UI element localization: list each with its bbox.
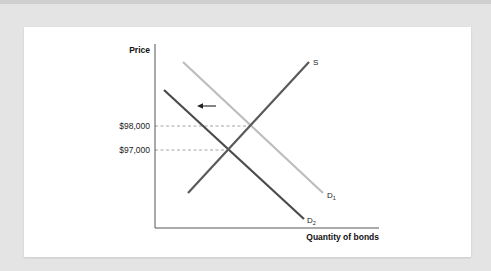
demand2-label-sub: 2	[313, 220, 316, 226]
tick-label-97000: $97,000	[119, 145, 150, 155]
tick-label-98000: $98,000	[119, 121, 150, 131]
y-axis-label: Price	[129, 45, 150, 55]
demand1-label-sub: 1	[333, 195, 336, 201]
demand1-label: D1	[327, 191, 336, 201]
demand2-label: D2	[307, 216, 316, 226]
supply-label: S	[313, 58, 318, 67]
supply-demand-chart: Price Quantity of bonds $98,000 $97,000 …	[0, 0, 491, 271]
left-arrow-icon	[197, 103, 216, 108]
x-axis-label: Quantity of bonds	[306, 232, 379, 242]
